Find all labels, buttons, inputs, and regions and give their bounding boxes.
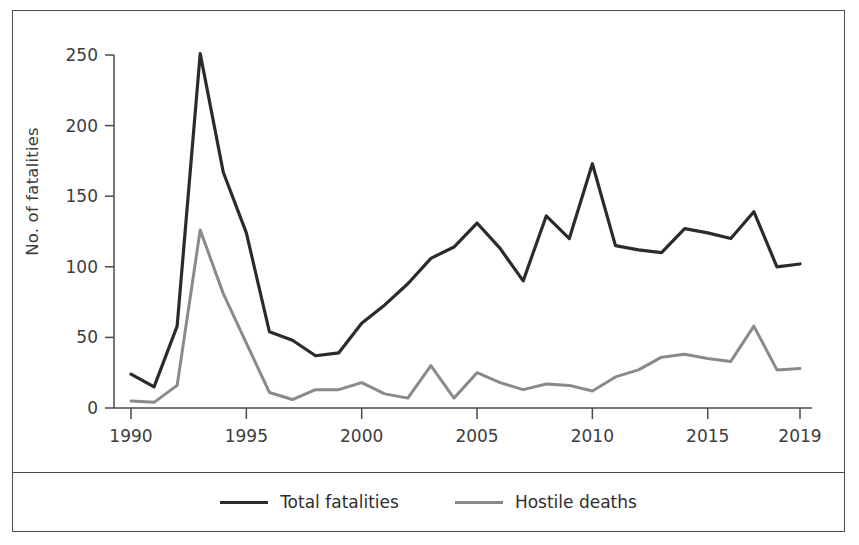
plot-area: No. of fatalities 050100150200250 199019…	[0, 0, 859, 472]
series-line-hostile-deaths	[131, 230, 800, 402]
legend-item[interactable]: Hostile deaths	[455, 492, 637, 512]
legend-label: Hostile deaths	[515, 492, 637, 512]
chart-legend: Total fatalitiesHostile deaths	[13, 473, 844, 531]
series-line-total-fatalities	[131, 54, 800, 387]
line-chart-canvas	[0, 0, 859, 472]
legend-line-swatch-icon	[455, 501, 503, 504]
figure: No. of fatalities 050100150200250 199019…	[0, 0, 859, 545]
legend-item[interactable]: Total fatalities	[220, 492, 399, 512]
legend-label: Total fatalities	[280, 492, 399, 512]
legend-line-swatch-icon	[220, 501, 268, 504]
